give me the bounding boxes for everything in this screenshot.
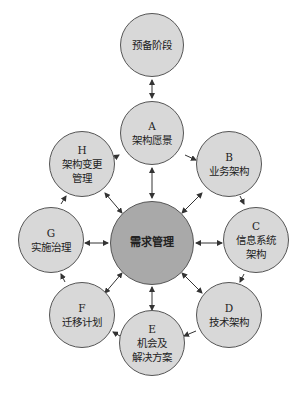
node-phase-f: F 迁移计划 — [49, 282, 115, 348]
node-letter: H — [77, 143, 86, 157]
node-label: 需求管理 — [130, 236, 174, 250]
node-label: 架构愿景 — [132, 133, 172, 147]
node-letter: E — [148, 322, 156, 336]
node-phase-d: D 技术架构 — [196, 282, 262, 348]
node-phase-e: E 机会及 解决方案 — [119, 310, 185, 376]
node-phase-g: G 实施治理 — [18, 207, 84, 273]
node-preliminary: 预备阶段 — [120, 13, 184, 77]
node-label: 迁移计划 — [62, 315, 102, 329]
node-letter: D — [225, 301, 233, 315]
node-label: 机会及 — [137, 336, 167, 350]
node-label: 架构变更 — [62, 157, 102, 171]
node-phase-c: C 信息系统 架构 — [223, 207, 289, 273]
node-phase-a: A 架构愿景 — [120, 101, 184, 165]
node-phase-b: B 业务架构 — [196, 131, 262, 197]
node-label-2: 解决方案 — [132, 350, 172, 364]
node-label-2: 管理 — [72, 171, 92, 185]
node-requirements-management: 需求管理 — [110, 201, 194, 285]
node-label: 实施治理 — [31, 240, 71, 254]
node-label: 技术架构 — [209, 315, 249, 329]
node-phase-h: H 架构变更 管理 — [49, 131, 115, 197]
node-letter: F — [78, 301, 85, 315]
node-label: 业务架构 — [209, 164, 249, 178]
node-label-2: 架构 — [246, 247, 266, 261]
node-letter: A — [148, 119, 156, 133]
node-letter: G — [47, 226, 55, 240]
node-label: 预备阶段 — [132, 38, 172, 52]
node-letter: C — [252, 219, 260, 233]
node-letter: B — [225, 150, 233, 164]
node-label: 信息系统 — [236, 233, 276, 247]
